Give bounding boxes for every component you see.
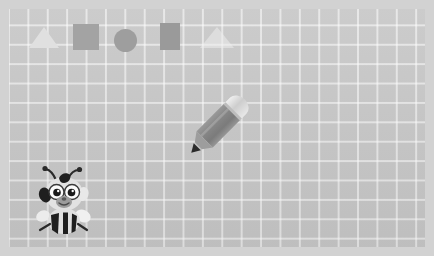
shape-rectangle[interactable] <box>160 23 180 50</box>
bee-stripe-3 <box>72 214 78 234</box>
shape-triangle-faint[interactable] <box>200 27 234 48</box>
shape-circle[interactable] <box>114 29 137 52</box>
pencil-icon <box>183 93 249 163</box>
bee-left-leg <box>40 224 50 230</box>
bee-right-leg <box>78 224 87 230</box>
bee-icon <box>34 164 94 236</box>
bee-nose <box>62 197 67 201</box>
bee-stripe-2 <box>63 213 68 235</box>
pencil-object[interactable] <box>183 93 249 163</box>
bee-stripe-1 <box>51 213 59 234</box>
shape-square[interactable] <box>73 24 99 50</box>
bee-character[interactable] <box>34 164 94 236</box>
bee-body <box>48 208 80 234</box>
shape-triangle[interactable] <box>29 27 59 48</box>
drawing-canvas[interactable] <box>0 0 434 256</box>
